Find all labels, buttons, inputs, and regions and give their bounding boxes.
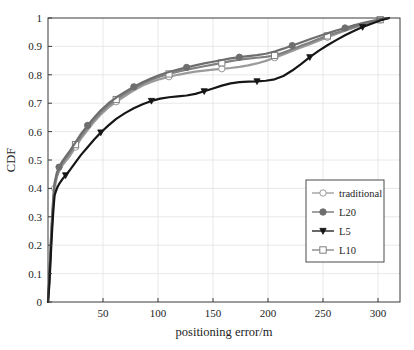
- data-point-marker: [342, 25, 348, 31]
- cdf-chart-figure: 5010015020025030000.10.20.30.40.50.60.70…: [0, 0, 414, 350]
- y-tick-label: 0.9: [28, 40, 42, 52]
- chart-canvas: 5010015020025030000.10.20.30.40.50.60.70…: [0, 0, 414, 350]
- data-point-marker: [236, 54, 242, 60]
- data-point-marker: [184, 64, 190, 70]
- y-tick-label: 0.8: [28, 69, 42, 81]
- data-point-marker: [85, 122, 91, 128]
- x-tick-label: 50: [98, 307, 110, 319]
- data-point-marker: [320, 190, 326, 196]
- y-tick-label: 0.1: [28, 268, 42, 280]
- x-tick-label: 100: [150, 307, 167, 319]
- data-point-marker: [320, 209, 326, 215]
- y-tick-label: 0: [37, 296, 43, 308]
- legend-label: L5: [339, 226, 351, 237]
- data-point-marker: [56, 164, 62, 170]
- y-tick-label: 0.5: [28, 154, 42, 166]
- x-tick-label: 150: [205, 307, 222, 319]
- legend-label: L20: [339, 207, 356, 218]
- y-tick-label: 0.4: [28, 182, 42, 194]
- data-point-marker: [219, 66, 225, 72]
- legend-label: traditional: [339, 188, 382, 199]
- x-tick-label: 250: [315, 307, 332, 319]
- data-point-marker: [320, 247, 326, 253]
- y-tick-label: 0.3: [28, 211, 42, 223]
- y-tick-label: 0.6: [28, 126, 42, 138]
- chart-background: [0, 0, 414, 350]
- y-axis-title: CDF: [4, 148, 18, 172]
- chart-legend[interactable]: traditionalL20L5L10: [306, 180, 384, 262]
- data-point-marker: [272, 52, 278, 58]
- data-point-marker: [289, 42, 295, 48]
- x-tick-label: 300: [370, 307, 387, 319]
- y-tick-label: 0.2: [28, 239, 42, 251]
- legend-label: L10: [339, 245, 356, 256]
- data-point-marker: [131, 84, 137, 90]
- x-axis-title: positioning error/m: [176, 325, 273, 339]
- y-tick-label: 0.7: [28, 97, 42, 109]
- y-tick-label: 1: [37, 12, 43, 24]
- x-tick-label: 200: [260, 307, 277, 319]
